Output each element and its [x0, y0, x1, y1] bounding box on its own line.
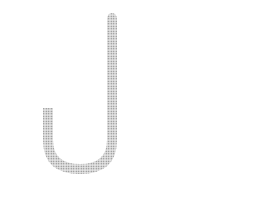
panel-a: [41, 13, 117, 174]
mercury-column-a: [43, 13, 117, 174]
manometer-diagram: [0, 0, 269, 202]
tube-wall-outer-a: [42, 53, 64, 108]
manometer-figure: [0, 0, 269, 202]
tube-left-outer-a: [42, 52, 63, 108]
